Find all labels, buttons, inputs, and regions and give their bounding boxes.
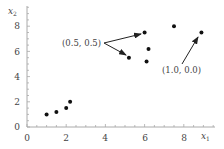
- x-axis-label: x1: [201, 131, 210, 142]
- y-tick-label: 2: [14, 97, 20, 107]
- y-tick-label: 4: [14, 72, 20, 82]
- annotation-arrow: [182, 37, 198, 64]
- data-point: [199, 31, 203, 35]
- y-tick-label: 0: [14, 122, 20, 132]
- scatter-chart: 0 2 4 6 8 0 2 4 6 8 x2 x1 (0.5, 0.5) (1.…: [0, 0, 224, 149]
- data-point: [147, 47, 151, 51]
- data-point: [127, 56, 131, 60]
- x-tick-label: 2: [63, 133, 69, 143]
- x-tick-label: 8: [181, 133, 187, 143]
- data-point: [45, 112, 49, 116]
- data-point: [64, 106, 68, 110]
- data-point: [68, 100, 72, 104]
- y-tick-label: 8: [14, 21, 20, 31]
- x-tick-label: 6: [142, 133, 148, 143]
- data-point: [54, 110, 58, 114]
- y-tick-label: 6: [14, 47, 20, 57]
- annotation-label-a: (0.5, 0.5): [62, 38, 101, 48]
- annotation-arrow: [104, 34, 141, 43]
- x-tick-label: 4: [102, 133, 108, 143]
- data-point: [145, 59, 149, 63]
- data-point: [172, 24, 176, 28]
- x-tick-label: 0: [24, 133, 30, 143]
- annotation-arrow: [104, 43, 126, 55]
- data-point: [143, 31, 147, 35]
- annotation-label-b: (1.0, 0.0): [162, 65, 201, 75]
- y-axis-label: x2: [8, 6, 17, 17]
